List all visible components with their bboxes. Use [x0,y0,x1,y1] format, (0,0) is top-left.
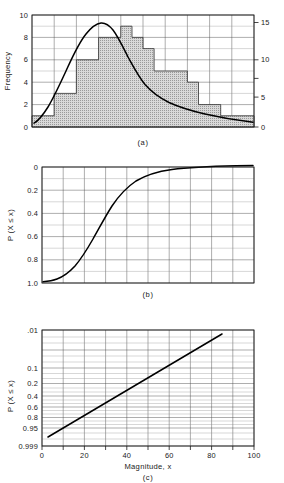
panel-a-caption: (a) [137,138,148,147]
panel-a: 10 8 6 4 2 0 Frequency 15 10 5 0 (a) [3,11,270,147]
panel-c-ytick-3: 0.4 [27,392,38,401]
panel-c-ytick-1: 0.1 [27,364,38,373]
panel-b-grid [42,167,254,283]
panel-a-ytick-left-2: 6 [24,55,28,64]
panel-b-ytick-5: 1.0 [27,279,38,288]
panel-a-ytick-right-2: 5 [261,93,265,102]
panel-a-ytick-right-1: 10 [261,55,270,64]
panel-c-xtick-0: 0 [40,451,44,460]
panel-c-ytick-4: 0.6 [27,403,38,412]
panel-b-y-axis-title: P (X ≤ x) [6,209,15,241]
panel-a-ytick-left-0: 10 [19,11,28,20]
panel-c-ytick-0: .01 [27,326,38,335]
panel-c-x-axis-title: Magnitude, x [124,462,171,471]
panel-c-ytick-5: 0.8 [27,413,38,422]
panel-c-caption: (c) [143,473,154,482]
figure-container: 10 8 6 4 2 0 Frequency 15 10 5 0 (a) [0,0,284,483]
panel-c-y-axis-title: P (X ≤ x) [6,380,15,412]
panel-c-ytick-7: 0.999 [19,442,39,451]
panel-c: .01 0.1 0.2 0.4 0.6 0.8 0.95 0.999 P (X … [6,326,260,482]
panel-c-xtick-3: 60 [165,451,174,460]
panel-b-y-axis: 0 0.2 0.4 0.6 0.8 1.0 [27,163,38,288]
panel-a-histogram-bars [32,26,254,127]
panel-c-ytick-6: 0.95 [23,424,38,433]
panel-a-ytick-right-3: 0 [261,123,265,132]
panel-c-probability-line [48,334,222,437]
panel-c-x-axis: 0 20 40 60 80 100 [40,446,261,460]
panel-c-xtick-1: 20 [80,451,89,460]
panel-b-ytick-3: 0.6 [27,232,38,241]
panel-a-ytick-right-0: 15 [261,18,270,27]
panel-c-y-axis: .01 0.1 0.2 0.4 0.6 0.8 0.95 0.999 [19,326,39,451]
panel-c-xtick-5: 100 [248,451,261,460]
panel-a-ytick-left-3: 4 [24,78,28,87]
panel-a-ytick-left-1: 8 [24,33,28,42]
panel-c-ytick-2: 0.2 [27,379,38,388]
panel-c-xtick-4: 80 [207,451,216,460]
panel-b-ytick-2: 0.4 [27,209,38,218]
panel-b: 0 0.2 0.4 0.6 0.8 1.0 P (X ≤ x) (b) [6,163,254,299]
panel-b-ytick-1: 0.2 [27,186,38,195]
three-panel-figure: 10 8 6 4 2 0 Frequency 15 10 5 0 (a) [0,0,284,483]
panel-c-xtick-2: 40 [122,451,131,460]
panel-b-ytick-0: 0 [34,163,38,172]
panel-a-y-axis-left: 10 8 6 4 2 0 [19,11,28,132]
panel-b-caption: (b) [142,290,153,299]
panel-b-ytick-4: 0.8 [27,255,38,264]
panel-a-ytick-left-4: 2 [24,100,28,109]
panel-a-y-axis-left-title: Frequency [3,52,12,91]
panel-a-y-axis-right: 15 10 5 0 [254,18,270,132]
panel-a-ytick-left-5: 0 [24,123,28,132]
